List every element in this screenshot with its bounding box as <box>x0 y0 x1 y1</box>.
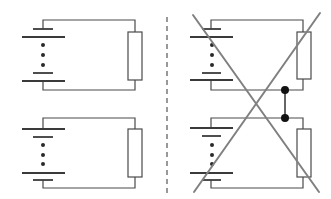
circuit-bottom-right <box>190 118 311 188</box>
battery-icon <box>22 29 65 81</box>
resistor-icon <box>128 129 142 177</box>
resistor-icon <box>128 32 142 80</box>
circuit-top-left <box>22 20 142 90</box>
battery-icon <box>190 128 233 180</box>
cross-out-icon <box>193 13 320 192</box>
circuit-top-right <box>190 20 311 90</box>
junction-link <box>281 86 289 122</box>
battery-icon <box>190 29 233 80</box>
battery-icon <box>22 129 65 180</box>
circuit-bottom-left <box>22 118 142 188</box>
junction-dot <box>281 114 289 122</box>
resistor-icon <box>297 32 311 79</box>
circuit-diagram <box>0 0 331 199</box>
circuit-wire <box>43 20 135 90</box>
junction-dot <box>281 86 289 94</box>
